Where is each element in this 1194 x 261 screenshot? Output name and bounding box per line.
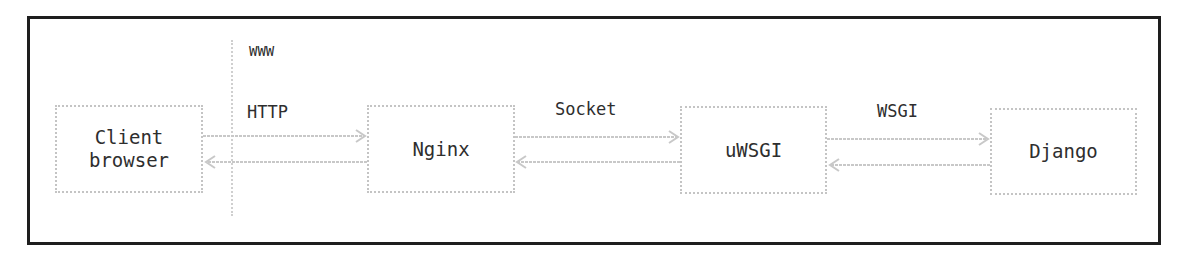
node-uwsgi: uWSGI	[680, 106, 827, 194]
node-client-browser: Client browser	[55, 105, 203, 193]
node-nginx: Nginx	[367, 105, 515, 193]
node-django: Django	[990, 108, 1137, 195]
